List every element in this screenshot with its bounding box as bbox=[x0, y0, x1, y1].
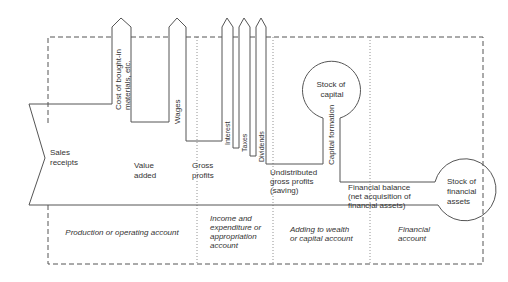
value-added-label: Value added bbox=[134, 161, 156, 180]
wealth-account-label: Adding to wealth or capital account bbox=[289, 225, 353, 243]
taxes-label: Taxes bbox=[241, 133, 248, 152]
financial-account-label: Financial account bbox=[398, 225, 432, 243]
interest-label: Interest bbox=[224, 122, 231, 145]
flow-diagram: Sales receipts Cost of bought-in materia… bbox=[0, 0, 508, 282]
wages-label: Wages bbox=[173, 99, 182, 124]
cost-bought-in-label: Cost of bought-in materials, etc. bbox=[114, 47, 132, 110]
gross-profits-label: Gross profits bbox=[192, 161, 216, 180]
undistributed-label: Undistributed gross profits (saving) bbox=[270, 168, 319, 195]
financial-balance-label: Financial balance (net acquisition of fi… bbox=[348, 183, 413, 210]
capital-formation-label: Capital formation bbox=[327, 105, 336, 165]
income-account-label: Income and expenditure or appropriation … bbox=[210, 214, 263, 250]
stock-of-capital-label: Stock of capital bbox=[316, 80, 347, 99]
production-account-label: Production or operating account bbox=[65, 228, 179, 237]
main-flow-outline bbox=[29, 18, 435, 205]
sales-receipts-label: Sales receipts bbox=[50, 148, 78, 167]
stock-of-financial-assets-label: Stock of financial assets bbox=[447, 177, 479, 206]
dividends-label: Dividends bbox=[258, 131, 265, 162]
